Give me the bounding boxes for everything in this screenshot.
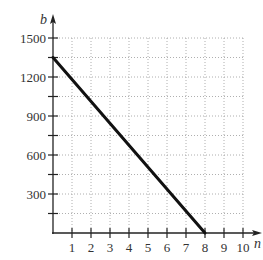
y-tick-label: 600 bbox=[27, 148, 47, 163]
x-tick-label: 10 bbox=[237, 240, 250, 255]
x-tick-label: 9 bbox=[221, 240, 228, 255]
y-axis-label: b bbox=[40, 12, 47, 27]
grid bbox=[53, 38, 243, 233]
x-tick-label: 2 bbox=[88, 240, 95, 255]
y-tick-label: 900 bbox=[27, 109, 47, 124]
x-axis-label: n bbox=[254, 236, 261, 251]
x-tick-label: 8 bbox=[202, 240, 209, 255]
x-tick-label: 5 bbox=[145, 240, 152, 255]
y-tick-label: 1500 bbox=[20, 31, 46, 46]
y-tick-label: 1200 bbox=[20, 70, 46, 85]
x-tick-label: 1 bbox=[69, 240, 76, 255]
x-tick-label: 4 bbox=[126, 240, 133, 255]
axes bbox=[52, 20, 256, 234]
line-chart: 1500 1200 900 600 300 1 2 3 4 5 6 7 8 9 … bbox=[0, 0, 263, 260]
x-tick-label: 7 bbox=[183, 240, 190, 255]
x-tick-label: 6 bbox=[164, 240, 171, 255]
y-tick-label: 300 bbox=[27, 187, 47, 202]
x-tick-label: 3 bbox=[107, 240, 114, 255]
